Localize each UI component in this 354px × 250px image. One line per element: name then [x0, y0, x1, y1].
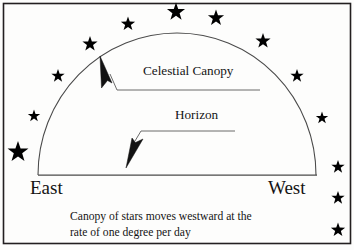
- caption-line-2: rate of one degree per day: [70, 225, 290, 241]
- west-label: West: [268, 178, 306, 197]
- celestial-canopy-figure: Celestial Canopy Horizon East West Canop…: [0, 0, 354, 250]
- horizon-label: Horizon: [175, 108, 218, 121]
- east-label: East: [30, 178, 63, 197]
- caption-line-1: Canopy of stars moves westward at the: [70, 209, 290, 225]
- figure-caption: Canopy of stars moves westward at the ra…: [70, 209, 290, 241]
- celestial-canopy-label: Celestial Canopy: [143, 64, 233, 77]
